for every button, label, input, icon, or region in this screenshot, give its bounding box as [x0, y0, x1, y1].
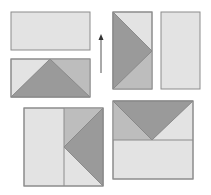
- bottom-right-combined-square: [113, 101, 193, 179]
- top-right-plain-rectangle: [161, 12, 200, 89]
- top-middle-triangle-rectangle: [113, 12, 152, 89]
- up-arrow-icon: [99, 34, 104, 73]
- puzzle-diagram: [0, 0, 211, 195]
- bottom-left-combined-square: [24, 108, 103, 186]
- top-left-plain-rectangle: [11, 12, 90, 50]
- top-left-triangle-rectangle: [11, 59, 90, 97]
